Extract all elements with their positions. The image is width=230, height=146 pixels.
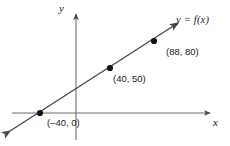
function-equation-label: y = f(x)	[176, 15, 209, 26]
point-label-40-50: (40, 50)	[113, 74, 146, 84]
point-label-88-80: (88, 80)	[166, 47, 199, 57]
data-point-88-80	[151, 38, 157, 44]
data-point-x-intercept	[37, 110, 43, 116]
data-point-40-50	[107, 65, 113, 71]
y-axis-label: y	[59, 3, 64, 14]
point-label-x-intercept: (–40, 0)	[47, 118, 80, 128]
function-graph-figure: y x y = f(x) (–40, 0) (40, 50) (88, 80)	[0, 0, 230, 146]
x-axis-label: x	[213, 117, 218, 128]
